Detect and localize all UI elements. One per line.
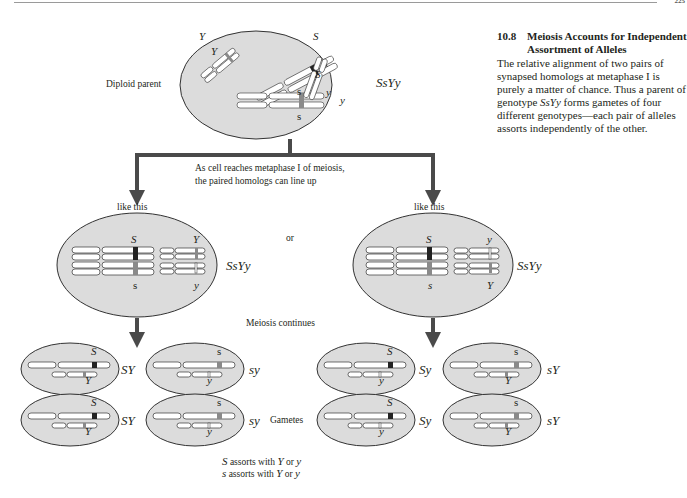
- gamete-2-small: y: [207, 374, 212, 386]
- gamete-5-small: y: [379, 374, 384, 386]
- gamete-8-small: Y: [505, 425, 511, 437]
- gamete-6-small: Y: [505, 374, 511, 386]
- section-heading: 10.8 Meiosis Accounts for Independent As…: [497, 30, 687, 56]
- assortment-line-1: S assorts with Y or y: [222, 456, 301, 468]
- gamete-3-small: Y: [85, 425, 91, 437]
- section-title: Meiosis Accounts for Independent Assortm…: [527, 30, 687, 56]
- gamete-6-big: s: [514, 345, 518, 357]
- metaphase-note-line2: the paired homologs can line up: [195, 175, 485, 188]
- left-bottom-s: s: [133, 279, 137, 291]
- left-like-this-label: like this: [117, 202, 147, 212]
- right-bottom-s: s: [428, 279, 432, 291]
- body-genotype: SsYy: [540, 96, 561, 108]
- right-top-y: y: [487, 233, 492, 245]
- parent-genotype: SsYy: [376, 75, 401, 91]
- parent-allele-S2: S: [315, 68, 321, 80]
- gamete-5-big: S: [387, 345, 393, 357]
- left-top-Y: Y: [193, 233, 199, 245]
- gamete-1-small: Y: [85, 374, 91, 386]
- gamete-7-genotype: Sy: [419, 413, 431, 429]
- right-metaphase-genotype: SsYy: [517, 258, 542, 274]
- gamete-1-big: S: [91, 345, 97, 357]
- left-bottom-y: y: [194, 279, 199, 291]
- gamete-8-genotype: sY: [547, 413, 559, 429]
- gamete-3-big: S: [91, 396, 97, 408]
- gamete-7-small: y: [379, 425, 384, 437]
- parent-allele-Y1: Y: [199, 30, 205, 42]
- gamete-8-big: s: [514, 396, 518, 408]
- parent-cell: [180, 31, 338, 139]
- sidebar-section: 10.8 Meiosis Accounts for Independent As…: [497, 30, 687, 135]
- diploid-parent-label: Diploid parent: [106, 79, 161, 89]
- left-metaphase-cell: [57, 213, 217, 317]
- or-label: or: [286, 233, 294, 243]
- gamete-4-small: y: [207, 425, 212, 437]
- parent-allele-y1: y: [326, 86, 331, 98]
- section-body: The relative alignment of two pairs of s…: [497, 57, 687, 135]
- gamete-2-big: s: [217, 345, 221, 357]
- assortment-line-2: s assorts with Y or y: [222, 468, 301, 480]
- parent-allele-Y2: Y: [211, 45, 217, 57]
- parent-allele-s1: s: [297, 85, 301, 97]
- right-bottom-Y: Y: [487, 279, 493, 291]
- metaphase-note-line1: As cell reaches metaphase I of meiosis,: [195, 162, 485, 175]
- gamete-1-genotype: SY: [121, 362, 135, 378]
- assortment-note: S assorts with Y or y s assorts with Y o…: [222, 456, 301, 480]
- gamete-cells: [21, 343, 541, 446]
- gamete-2-genotype: sy: [249, 362, 260, 378]
- gametes-label: Gametes: [270, 415, 303, 425]
- parent-allele-s2: s: [297, 110, 301, 122]
- gamete-5-genotype: Sy: [419, 362, 431, 378]
- gamete-4-big: s: [217, 396, 221, 408]
- right-metaphase-cell: [353, 213, 513, 317]
- gamete-6-genotype: sY: [547, 362, 559, 378]
- right-top-S: S: [426, 233, 432, 245]
- left-metaphase-genotype: SsYy: [226, 258, 251, 274]
- left-top-S: S: [131, 233, 137, 245]
- right-like-this-label: like this: [414, 202, 444, 212]
- parent-allele-S1: S: [313, 30, 319, 42]
- metaphase-note: As cell reaches metaphase I of meiosis, …: [195, 162, 485, 188]
- gamete-4-genotype: sy: [249, 413, 260, 429]
- section-number: 10.8: [497, 30, 527, 56]
- parent-allele-y2: y: [340, 94, 345, 106]
- gamete-3-genotype: SY: [121, 413, 135, 429]
- gamete-7-big: S: [387, 396, 393, 408]
- meiosis-continues-label: Meiosis continues: [246, 318, 315, 328]
